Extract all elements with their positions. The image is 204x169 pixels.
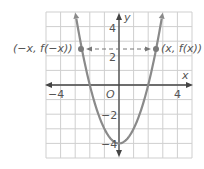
curve-left-arrow-icon [73,13,79,19]
x-axis-label: x [182,70,189,81]
x-tick-neg4: −4 [48,89,64,100]
curve-right-arrow-icon [159,13,165,19]
y-axis-up-arrow-icon [116,13,122,20]
x-tick-pos4: 4 [174,89,181,100]
y-tick-neg2: −2 [101,110,117,121]
y-axis-down-arrow-icon [116,150,122,157]
point-left-label: (−x, f(−x)) [13,43,73,54]
dashed-arrow-left-icon [86,47,92,52]
point-right-marker [153,46,159,52]
point-right-label: (x, f(x)) [161,43,202,54]
y-tick-pos4: 4 [109,23,116,34]
y-axis-label: y [124,12,131,23]
y-tick-pos2: 2 [109,52,116,63]
y-tick-neg4: −4 [101,139,117,150]
origin-label: O [106,89,115,100]
point-left-marker [78,46,84,52]
